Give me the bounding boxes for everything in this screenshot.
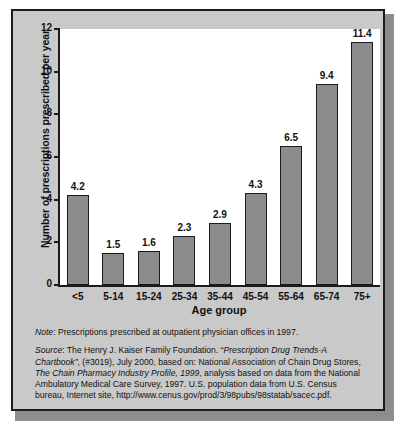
bar-group: 1.55-14 [96,29,132,285]
bar-group: 6.555-64 [273,29,309,285]
bar-series: 4.2<51.55-141.615-242.325-342.935-444.34… [60,29,380,285]
source-line: Source: The Henry J. Kaiser Family Found… [35,345,365,401]
y-axis-tick-label: 6 [46,150,52,161]
bar-value-label: 4.3 [249,179,263,190]
x-axis-tick-label: 15-24 [136,291,162,302]
bar-group: 4.2<5 [60,29,96,285]
plot-area: 024681012 4.2<51.55-141.615-242.325-342.… [58,29,380,287]
x-axis-tick-label: 75+ [354,291,371,302]
footnotes: Note: Prescriptions prescribed at outpat… [35,327,365,402]
bar-group: 2.935-44 [202,29,238,285]
note-label: Note [35,327,53,337]
bar-value-label: 9.4 [320,70,334,81]
source-label: Source [35,345,62,355]
bar [245,193,267,285]
x-axis-tick-label: <5 [72,291,83,302]
bar-value-label: 6.5 [284,132,298,143]
bar [316,84,338,285]
bar-value-label: 1.5 [106,239,120,250]
bar-value-label: 2.9 [213,209,227,220]
bar [280,146,302,285]
bar [351,42,373,285]
bar-value-label: 1.6 [142,237,156,248]
y-axis-title: Number of prescriptions prescribed per y… [39,3,51,275]
note-line: Note: Prescriptions prescribed at outpat… [35,327,365,338]
bar-group: 9.465-74 [309,29,345,285]
x-axis-tick-label: 45-54 [243,291,269,302]
y-axis-tick-label: 4 [46,193,52,204]
chart-panel: Number of prescriptions prescribed per y… [11,9,385,411]
bar-value-label: 11.4 [353,28,372,39]
x-axis-tick-label: 5-14 [103,291,123,302]
x-axis-tick-label: 65-74 [314,291,340,302]
bar [209,223,231,285]
bar-group: 11.475+ [344,29,380,285]
plot-region: Number of prescriptions prescribed per y… [13,11,383,319]
bar [67,195,89,285]
y-axis-tick-label: 10 [41,65,52,76]
x-axis-tick-label: 25-34 [172,291,198,302]
y-axis-tick-label: 8 [46,107,52,118]
bar [173,236,195,285]
source-title-industry-profile: The Chain Pharmacy Industry Profile, 199… [35,368,199,378]
x-axis-title: Age group [58,304,380,316]
x-axis-tick-label: 55-64 [278,291,304,302]
bar [138,251,160,285]
bar [102,253,124,285]
y-axis-tick-label: 2 [46,235,52,246]
bar-group: 1.615-24 [131,29,167,285]
bar-value-label: 4.2 [71,181,85,192]
source-text-part1: : The Henry J. Kaiser Family Foundation.… [62,345,223,355]
bar-group: 4.345-54 [238,29,274,285]
bar-value-label: 2.3 [177,222,191,233]
source-text-part2: , (#3019), July 2000, based on: National… [78,357,361,367]
bar-group: 2.325-34 [167,29,203,285]
y-axis-tick-label: 0 [46,278,52,289]
figure-container: Number of prescriptions prescribed per y… [11,9,394,421]
x-axis-tick-label: 35-44 [207,291,233,302]
note-text: : Prescriptions prescribed at outpatient… [53,327,298,337]
y-axis-tick-label: 12 [41,22,52,33]
